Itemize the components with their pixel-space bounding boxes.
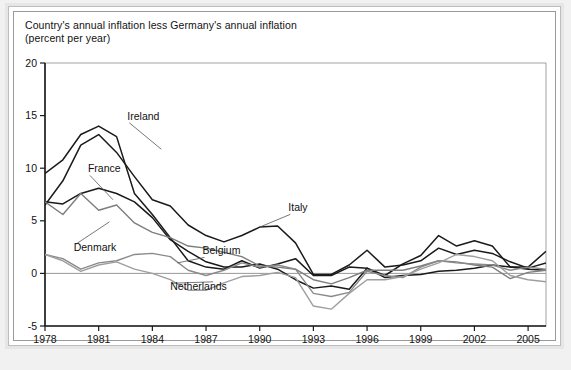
y-tick-label: -5	[28, 320, 37, 332]
y-tick-label: 20	[25, 57, 37, 69]
x-tick-label: 1996	[355, 333, 379, 345]
y-tick-label: 0	[31, 267, 37, 279]
y-tick-label: 15	[25, 109, 37, 121]
figure-frame: Country's annual inflation less Germany'…	[8, 6, 561, 346]
x-tick-label: 2002	[463, 333, 487, 345]
x-tick-label: 1978	[33, 333, 57, 345]
series-label-denmark: Denmark	[74, 241, 117, 253]
y-tick-label: 5	[31, 214, 37, 226]
y-tick-label: 10	[25, 162, 37, 174]
series-label-italy: Italy	[288, 201, 308, 213]
x-tick-label: 2005	[516, 333, 540, 345]
x-tick-label: 1993	[302, 333, 326, 345]
x-tick-label: 1999	[409, 333, 433, 345]
figure-root: Country's annual inflation less Germany'…	[0, 0, 571, 370]
series-label-netherlands: Netherlands	[170, 280, 227, 292]
x-tick-label: 1981	[87, 333, 111, 345]
x-tick-label: 1987	[194, 333, 218, 345]
series-label-ireland: Ireland	[127, 110, 159, 122]
series-label-belgium: Belgium	[202, 244, 240, 256]
series-label-france: France	[88, 162, 121, 174]
x-tick-label: 1990	[248, 333, 272, 345]
x-tick-label: 1984	[141, 333, 165, 345]
line-chart-plot: 20151050-5197819811984198719901993199619…	[9, 7, 560, 345]
